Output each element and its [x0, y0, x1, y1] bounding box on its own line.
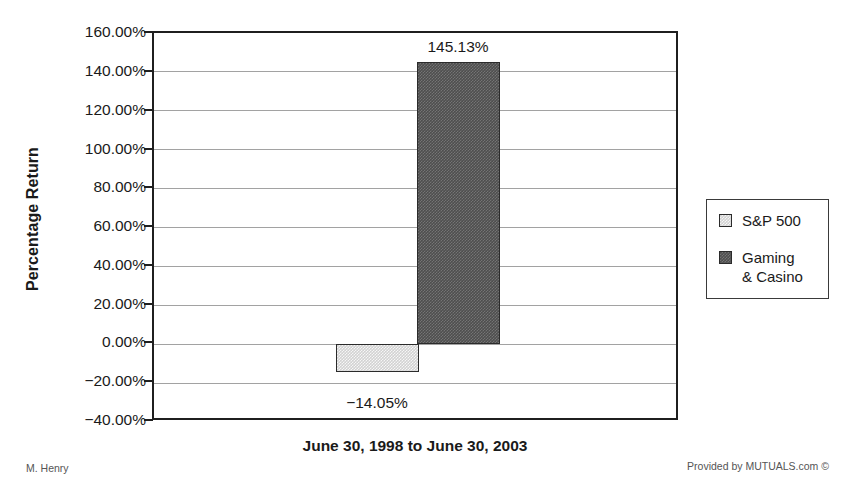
y-tick-label: 80.00% [26, 179, 146, 195]
gridline [154, 383, 676, 384]
y-tick-label: 120.00% [26, 102, 146, 118]
gridline [154, 110, 676, 111]
legend: S&P 500 Gaming & Casino [706, 199, 829, 299]
x-axis-title: June 30, 1998 to June 30, 2003 [152, 437, 678, 455]
bar-sp-500[interactable] [336, 344, 419, 372]
y-tick-label: 140.00% [26, 63, 146, 79]
gridline [154, 71, 676, 72]
credit-provider: Provided by MUTUALS.com © [687, 460, 829, 472]
gridline [154, 188, 676, 189]
y-tick-label: 40.00% [26, 257, 146, 273]
legend-swatch-icon [719, 214, 732, 227]
y-tick-label: 0.00% [26, 334, 146, 350]
gridline [154, 266, 676, 267]
percentage-return-bar-chart: Percentage Return 160.00% 140.00% 120.00… [0, 0, 851, 499]
plot-area: 145.13% −14.05% [152, 31, 678, 420]
gridline [154, 305, 676, 306]
y-tick-label: 160.00% [26, 24, 146, 40]
legend-item-gaming-casino[interactable]: Gaming & Casino [719, 248, 818, 286]
legend-swatch-icon [719, 251, 732, 264]
bar-value-label-sp: −14.05% [317, 395, 437, 411]
y-tick-label: 60.00% [26, 218, 146, 234]
legend-label: Gaming & Casino [742, 248, 803, 286]
y-tick-label: −40.00% [26, 412, 146, 428]
gridline [154, 149, 676, 150]
y-tick-label: 100.00% [26, 141, 146, 157]
y-tick-label: 20.00% [26, 296, 146, 312]
bar-value-label-gaming: 145.13% [398, 39, 518, 55]
bar-gaming-casino[interactable] [417, 62, 500, 344]
legend-item-sp-500[interactable]: S&P 500 [719, 211, 818, 230]
gridline [154, 227, 676, 228]
legend-label: S&P 500 [742, 211, 801, 230]
y-tick-label: −20.00% [26, 373, 146, 389]
credit-author: M. Henry [26, 462, 69, 474]
